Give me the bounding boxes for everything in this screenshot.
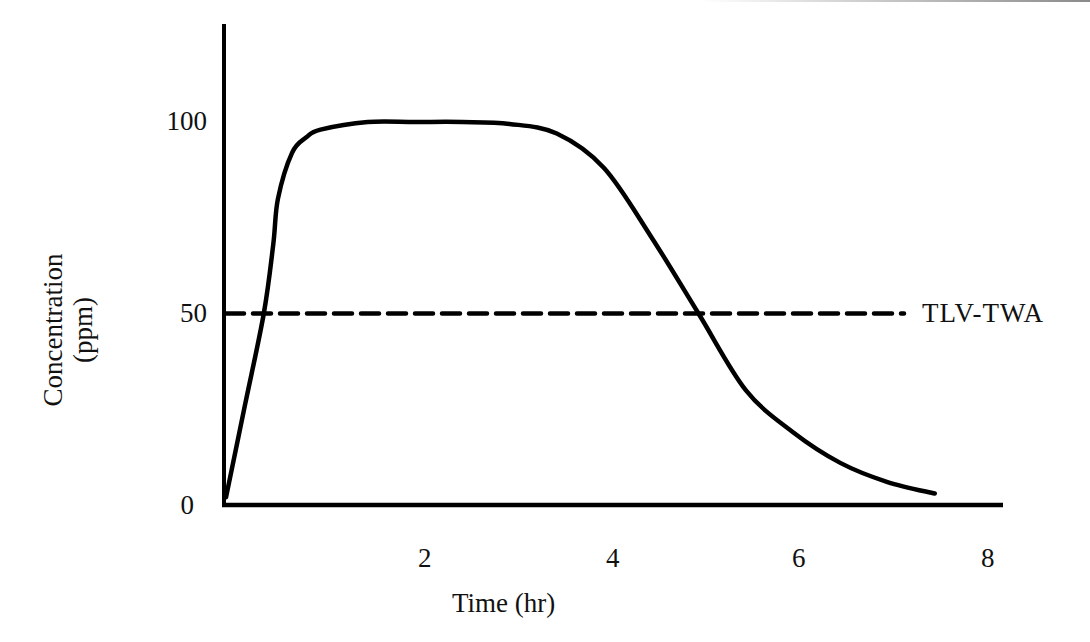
y-axis-label-line2: (ppm) xyxy=(68,254,98,407)
concentration-curve xyxy=(226,121,935,497)
y-tick-50: 50 xyxy=(147,298,207,328)
y-axis-label-line1: Concentration xyxy=(38,254,68,407)
tlv-twa-label: TLV-TWA xyxy=(922,298,1044,329)
x-axis-label: Time (hr) xyxy=(452,588,555,619)
y-axis-label: Concentration (ppm) xyxy=(8,230,128,430)
y-tick-0: 0 xyxy=(134,490,194,520)
x-tick-2: 2 xyxy=(418,543,432,573)
x-tick-6: 6 xyxy=(792,543,806,573)
x-tick-8: 8 xyxy=(981,543,995,573)
y-tick-100: 100 xyxy=(147,106,207,136)
x-tick-4: 4 xyxy=(606,543,620,573)
